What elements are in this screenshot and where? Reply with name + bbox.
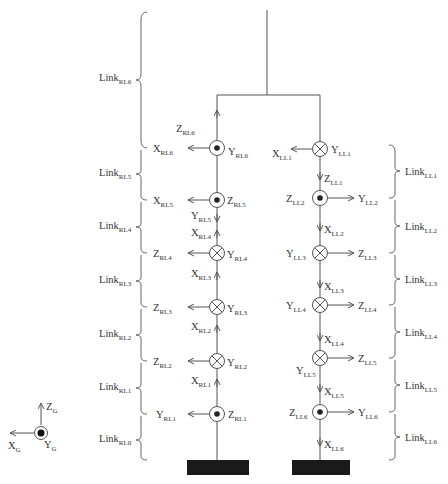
left-foot (292, 460, 350, 475)
joint-ll6: ZLL6 YLL6 XLL6 (289, 405, 378, 454)
dot-icon (38, 430, 45, 437)
svg-text:ZRL3: ZRL3 (153, 302, 172, 316)
svg-text:YG: YG (44, 439, 57, 453)
svg-text:ZLL6: ZLL6 (289, 407, 308, 421)
svg-text:XLL2: XLL2 (324, 224, 344, 238)
dot-icon (317, 195, 323, 201)
right-leg-link-labels: LinkRL6 LinkRL5 LinkRL4 LinkRL3 LinkRL2 … (99, 72, 132, 447)
svg-text:ZLL1: ZLL1 (324, 173, 343, 187)
svg-text:LinkLL4: LinkLL4 (405, 327, 437, 341)
svg-text:XRL4: XRL4 (191, 227, 212, 241)
svg-text:LinkRL0: LinkRL0 (99, 433, 132, 447)
svg-text:YLL2: YLL2 (358, 193, 378, 207)
svg-text:ZRL2: ZRL2 (153, 356, 172, 370)
svg-text:YLL3: YLL3 (286, 248, 306, 262)
joint-rl5: XRL5 ZRL5 YRL5 XRL4 (153, 193, 246, 242)
robot-kinematic-diagram: ZRL6 XRL6 YRL6 XRL5 ZRL5 YRL5 XRL4 ZRL4 … (0, 0, 448, 484)
svg-text:ZRL6: ZRL6 (176, 123, 195, 137)
svg-text:ZRL4: ZRL4 (153, 248, 172, 262)
svg-text:ZLL5: ZLL5 (358, 353, 377, 367)
svg-text:XRL2: XRL2 (191, 321, 212, 335)
svg-text:LinkRL5: LinkRL5 (99, 167, 132, 181)
svg-text:YRL4: YRL4 (227, 249, 248, 263)
svg-text:YLL1: YLL1 (331, 144, 351, 158)
right-leg-link-braces (136, 12, 147, 460)
svg-text:YRL5: YRL5 (191, 210, 212, 224)
svg-text:LinkRL6: LinkRL6 (99, 72, 132, 86)
svg-text:LinkRL1: LinkRL1 (99, 381, 132, 395)
svg-text:XLL4: XLL4 (324, 334, 344, 348)
dot-icon (214, 145, 220, 151)
joint-rl1: YRL1 ZRL1 (156, 407, 247, 424)
svg-text:YLL5: YLL5 (296, 365, 316, 379)
svg-text:ZRL1: ZRL1 (228, 409, 247, 423)
joint-ll5: YLL5 ZLL5 XLL5 (296, 351, 377, 401)
dot-icon (214, 197, 220, 203)
svg-text:YLL6: YLL6 (358, 407, 378, 421)
svg-text:ZRL5: ZRL5 (227, 195, 246, 209)
svg-text:YRL2: YRL2 (227, 357, 248, 371)
svg-text:XRL1: XRL1 (191, 375, 212, 389)
svg-text:XLL6: XLL6 (324, 439, 344, 453)
joint-rl3: ZRL3 YRL3 XRL2 (153, 300, 248, 336)
svg-text:LinkRL2: LinkRL2 (99, 328, 132, 342)
svg-text:XRL6: XRL6 (153, 143, 174, 157)
svg-text:YRL1: YRL1 (156, 409, 177, 423)
svg-text:LinkLL5: LinkLL5 (405, 380, 437, 394)
svg-text:XLL3: XLL3 (324, 281, 344, 295)
joint-ll2: ZLL2 YLL2 XLL2 (286, 191, 378, 239)
svg-text:ZLL3: ZLL3 (358, 248, 377, 262)
svg-text:ZLL2: ZLL2 (286, 193, 305, 207)
svg-text:LinkLL1: LinkLL1 (405, 166, 437, 180)
svg-text:LinkRL4: LinkRL4 (99, 220, 132, 234)
joint-rl2: ZRL2 YRL2 XRL1 (153, 354, 248, 390)
svg-text:YLL4: YLL4 (286, 300, 306, 314)
svg-text:XG: XG (8, 440, 21, 454)
svg-text:LinkLL6: LinkLL6 (405, 432, 437, 446)
svg-text:XLL1: XLL1 (272, 148, 292, 162)
svg-text:ZLL4: ZLL4 (358, 300, 377, 314)
svg-text:LinkLL3: LinkLL3 (405, 274, 437, 288)
svg-text:XLL5: XLL5 (324, 386, 344, 400)
right-foot (187, 460, 249, 475)
global-coordinate-frame: ZG XG YG (8, 401, 57, 454)
dot-icon (317, 409, 323, 415)
dot-icon (214, 411, 220, 417)
svg-text:LinkLL2: LinkLL2 (405, 221, 437, 235)
left-leg-link-braces (389, 145, 400, 460)
svg-text:YRL6: YRL6 (228, 146, 249, 160)
left-leg-link-labels: LinkLL1 LinkLL2 LinkLL3 LinkLL4 LinkLL5 … (405, 166, 437, 446)
joint-rl6: ZRL6 XRL6 YRL6 (153, 123, 249, 160)
svg-text:LinkRL3: LinkRL3 (99, 274, 132, 288)
joint-ll1: XLL1 YLL1 ZLL1 (272, 142, 351, 188)
svg-text:YRL3: YRL3 (227, 303, 248, 317)
svg-text:XRL5: XRL5 (153, 195, 174, 209)
torso-structure (217, 10, 320, 95)
svg-text:ZG: ZG (46, 401, 57, 415)
joint-rl4: ZRL4 YRL4 XRL3 (153, 246, 248, 283)
joint-ll3: YLL3 ZLL3 XLL3 (286, 246, 377, 296)
svg-text:XRL3: XRL3 (191, 268, 212, 282)
joint-ll4: YLL4 ZLL4 XLL4 (286, 298, 377, 349)
